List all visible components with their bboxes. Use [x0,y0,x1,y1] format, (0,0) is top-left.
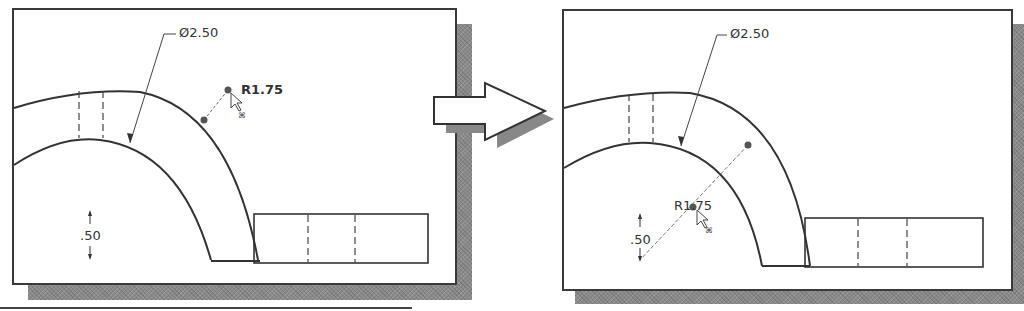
diameter-dimension[interactable]: Ø2.50 [179,25,218,40]
sketch-drawing: ⌘ [0,0,480,311]
outer-arc[interactable] [564,93,810,266]
tab-rectangle[interactable] [805,218,983,267]
thickness-dimension[interactable]: .50 [80,228,101,243]
before-panel: ⌘ Ø2.50 R1.75 .50 [0,0,480,311]
outer-arc[interactable] [14,91,258,260]
radius-grip[interactable] [225,87,232,94]
radius-dimension[interactable]: R1.75 [241,82,283,97]
move-icon: ⌘ [238,111,246,120]
tab-rectangle[interactable] [254,214,428,263]
radius-point[interactable] [745,142,752,149]
diameter-dimension[interactable]: Ø2.50 [730,26,769,41]
thickness-dimension[interactable]: .50 [630,232,651,247]
divider-line [0,307,412,309]
radius-dimension[interactable]: R1.75 [674,198,712,213]
after-panel: ⌘ Ø2.50 R1.75 .50 [560,0,1024,311]
sketch-drawing: ⌘ [560,0,1024,311]
radius-point[interactable] [201,117,208,124]
inner-arc[interactable] [14,139,211,260]
inner-arc[interactable] [564,143,762,266]
move-icon: ⌘ [705,226,713,235]
